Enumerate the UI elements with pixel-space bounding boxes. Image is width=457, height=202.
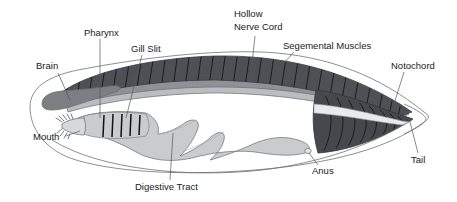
label-tail: Tail: [411, 154, 425, 165]
anus: [305, 148, 311, 153]
label-gill-slit: Gill Slit: [131, 43, 161, 54]
anatomy-diagram-svg: Brain Pharynx Gill Slit Hollow Nerve Cor…: [0, 0, 457, 202]
lancelet-anatomy-figure: Brain Pharynx Gill Slit Hollow Nerve Cor…: [0, 0, 457, 202]
label-hollow-nerve-cord-line2: Nerve Cord: [234, 21, 283, 32]
leader-tail: [409, 118, 418, 153]
label-digestive-tract: Digestive Tract: [135, 181, 198, 192]
leader-notochord: [394, 72, 404, 104]
label-hollow-nerve-cord-line1: Hollow: [234, 8, 263, 19]
label-brain: Brain: [36, 60, 58, 71]
label-pharynx: Pharynx: [84, 27, 119, 38]
label-notochord: Notochord: [391, 60, 435, 71]
label-anus: Anus: [312, 165, 334, 176]
label-hollow-nerve-cord: Hollow Nerve Cord: [234, 8, 283, 32]
mouth: [56, 114, 86, 139]
pharynx: [84, 112, 149, 138]
label-mouth: Mouth: [33, 131, 59, 142]
label-segemental-muscles: Segemental Muscles: [283, 40, 371, 51]
